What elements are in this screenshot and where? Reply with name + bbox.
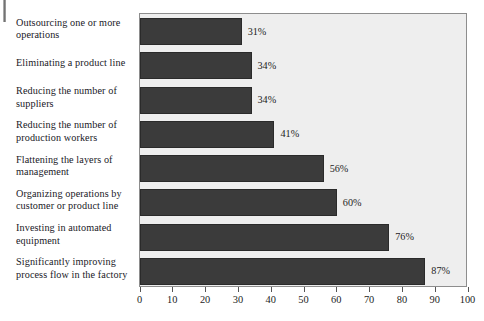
x-axis-tick-label: 0 (137, 294, 142, 305)
x-axis-tick (336, 287, 337, 292)
category-label-line: equipment (16, 235, 138, 247)
category-label-line: Investing in automated (16, 222, 138, 234)
plot-area: 31%34%34%41%56%60%76%87% (139, 13, 467, 287)
category-label-line: Outsourcing one or more (16, 17, 138, 29)
bar-chart-figure: Outsourcing one or moreoperationsElimina… (0, 0, 484, 321)
category-label: Outsourcing one or moreoperations (16, 17, 138, 42)
category-label: Reducing the number ofsuppliers (16, 85, 138, 110)
bar (140, 224, 389, 251)
bar (140, 189, 337, 216)
category-label: Investing in automatedequipment (16, 222, 138, 247)
category-label-line: management (16, 166, 138, 178)
x-axis-tick (205, 287, 206, 292)
category-label-line: process flow in the factory (16, 269, 138, 281)
category-label: Significantly improvingprocess flow in t… (16, 256, 138, 281)
category-label-column: Outsourcing one or moreoperationsElimina… (0, 13, 139, 287)
x-axis-tick-label: 90 (429, 294, 439, 305)
category-label-line: production workers (16, 132, 138, 144)
x-axis-tick (172, 287, 173, 292)
x-axis-tick-label: 20 (200, 294, 210, 305)
bar-value-label: 34% (258, 95, 277, 105)
bar (140, 155, 324, 182)
category-label: Reducing the number ofproduction workers (16, 119, 138, 144)
x-axis-tick-label: 60 (331, 294, 341, 305)
bar-value-label: 87% (431, 266, 450, 276)
category-label-line: Reducing the number of (16, 85, 138, 97)
category-label-line: customer or product line (16, 200, 138, 212)
category-label-line: suppliers (16, 98, 138, 110)
x-axis-tick-label: 50 (298, 294, 308, 305)
x-axis-tick (271, 287, 272, 292)
x-axis-tick-label: 80 (397, 294, 407, 305)
bar (140, 87, 252, 114)
x-axis-tick (402, 287, 403, 292)
category-label-line: Significantly improving (16, 256, 138, 268)
category-label: Organizing operations bycustomer or prod… (16, 188, 138, 213)
category-label: Flattening the layers ofmanagement (16, 154, 138, 179)
bar (140, 52, 252, 79)
x-axis-tick (369, 287, 370, 292)
category-label-line: Flattening the layers of (16, 154, 138, 166)
bar (140, 121, 274, 148)
bar (140, 18, 242, 45)
x-axis-tick-label: 70 (364, 294, 374, 305)
category-label: Eliminating a product line (16, 57, 138, 69)
x-axis-tick-label: 100 (460, 294, 476, 305)
bar (140, 258, 425, 285)
bar-value-label: 31% (248, 27, 267, 37)
category-label-line: Reducing the number of (16, 119, 138, 131)
x-axis-tick (468, 287, 469, 292)
x-axis-tick (140, 287, 141, 292)
bar-value-label: 76% (395, 232, 414, 242)
x-axis-tick-label: 30 (233, 294, 243, 305)
bar-value-label: 60% (343, 198, 362, 208)
x-axis-tick-label: 40 (265, 294, 275, 305)
x-axis-tick (435, 287, 436, 292)
bar-value-label: 56% (330, 164, 349, 174)
category-label-line: Eliminating a product line (16, 57, 138, 69)
x-axis-tick (238, 287, 239, 292)
x-axis-tick (304, 287, 305, 292)
category-label-line: Organizing operations by (16, 188, 138, 200)
bar-value-label: 34% (258, 61, 277, 71)
category-label-line: operations (16, 29, 138, 41)
x-axis: 0102030405060708090100 (139, 287, 468, 321)
bar-value-label: 41% (280, 129, 299, 139)
x-axis-tick-label: 10 (167, 294, 177, 305)
